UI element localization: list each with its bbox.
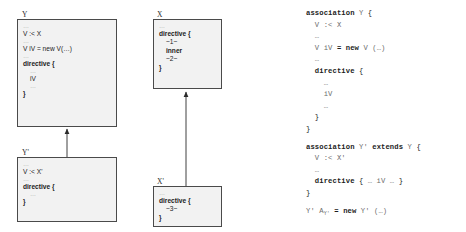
source-line: V :< X	[306, 20, 466, 32]
source-line: V iV = new V (…)	[306, 43, 466, 55]
source-line: …	[306, 54, 466, 66]
code-line: iV	[23, 75, 111, 84]
code-line: ~3~	[159, 205, 216, 214]
source-line: iV	[306, 89, 466, 101]
box-x[interactable]: … directive { ~1~ inner ~2~ }	[153, 19, 222, 89]
source-line: association Y {	[306, 8, 466, 20]
source-line: }	[306, 112, 466, 124]
code-line: }	[23, 198, 111, 207]
code-line: directive {	[159, 197, 216, 206]
box-label-x: X	[157, 10, 163, 19]
source-line: …	[306, 31, 466, 43]
code-line: ~2~	[159, 55, 216, 64]
source-line: V :< X'	[306, 153, 466, 165]
source-line: directive {	[306, 66, 466, 78]
box-label-xprime: X'	[157, 177, 164, 186]
code-line: directive {	[23, 183, 111, 192]
box-yprime[interactable]: … V :< X' … directive { … }	[17, 157, 117, 222]
diagram-canvas: Y … V :< X … V iV = new V(…) … directive…	[0, 0, 466, 232]
code-line: directive {	[159, 30, 216, 39]
code-line: V :< X	[23, 30, 111, 39]
code-line: }	[159, 214, 216, 223]
box-y[interactable]: … V :< X … V iV = new V(…) … directive {…	[17, 19, 117, 127]
code-line: directive {	[23, 60, 111, 69]
source-line: Y' AY' = new Y' (…)	[306, 206, 466, 221]
source-line: …	[306, 78, 466, 90]
box-label-y: Y	[22, 10, 28, 19]
source-line: }	[306, 188, 466, 200]
source-line: association Y' extends Y {	[306, 142, 466, 154]
code-line: ~1~	[159, 38, 216, 47]
code-line: }	[159, 64, 216, 73]
source-line: …	[306, 165, 466, 177]
box-label-yprime: Y'	[22, 148, 29, 157]
source-line: directive { … iV … }	[306, 176, 466, 188]
code-line: inner	[159, 47, 216, 56]
code-line: V :< X'	[23, 168, 111, 177]
source-line: …	[306, 101, 466, 113]
code-line: V iV = new V(…)	[23, 45, 111, 54]
code-line: }	[23, 90, 111, 99]
source-listing: association Y { V :< X … V iV = new V (……	[306, 8, 466, 221]
source-line: }	[306, 124, 466, 136]
box-xprime[interactable]: … directive { ~3~ }	[153, 186, 222, 227]
